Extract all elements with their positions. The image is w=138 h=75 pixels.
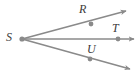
points-group	[19, 22, 120, 62]
ray-SU-line	[22, 39, 130, 69]
point-dot-R	[89, 22, 94, 27]
point-label-S: S	[6, 31, 12, 43]
point-label-T: T	[112, 22, 119, 34]
point-label-U: U	[87, 43, 96, 55]
point-dot-T	[116, 37, 121, 42]
vertex-dot-S	[19, 36, 24, 41]
point-label-R: R	[79, 3, 86, 15]
point-dot-U	[88, 57, 93, 62]
ray-SR-line	[22, 11, 126, 39]
geometry-canvas	[0, 0, 138, 75]
geometry-figure: S R T U	[0, 0, 138, 75]
